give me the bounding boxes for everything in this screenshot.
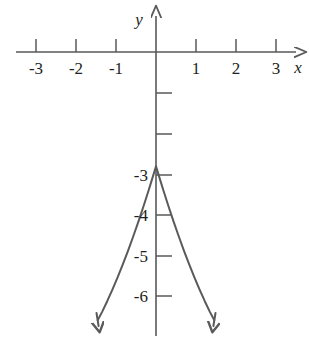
parabola-graph-figure: -3 -2 -1 1 2 3 -3 -4 -5 -6 y x — [0, 0, 309, 342]
coordinate-plane-svg: -3 -2 -1 1 2 3 -3 -4 -5 -6 y x — [0, 0, 309, 342]
x-tick-label-neg3: -3 — [29, 59, 43, 78]
curve-arrow-left — [97, 313, 99, 326]
x-axis-label: x — [293, 58, 302, 77]
x-tick-label-neg1: -1 — [109, 59, 123, 78]
y-tick-label-neg4: -4 — [134, 206, 149, 225]
x-tick-label-pos1: 1 — [192, 59, 201, 78]
curve-arrow-right — [213, 313, 215, 326]
x-tick-label-pos3: 3 — [272, 59, 281, 78]
y-tick-label-neg6: -6 — [134, 287, 148, 306]
x-tick-label-pos2: 2 — [232, 59, 241, 78]
x-tick-label-neg2: -2 — [69, 59, 83, 78]
y-axis-label: y — [133, 10, 143, 29]
y-tick-label-neg5: -5 — [134, 247, 148, 266]
y-tick-label-neg3: -3 — [134, 166, 148, 185]
